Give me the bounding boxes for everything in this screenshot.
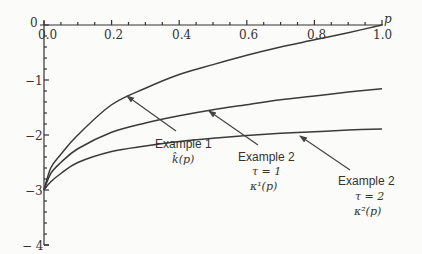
x-axis: 0.0 0.2 0.4 0.6 0.8 1.0 p [38, 12, 392, 42]
y-tick-label: − 4 [22, 239, 44, 253]
svg-text:τ = 1: τ = 1 [252, 165, 281, 178]
line-chart: 0.0 0.2 0.4 0.6 0.8 1.0 p 0 −1 −2 −3 − 4… [0, 0, 422, 254]
y-tick-label: −3 [25, 184, 43, 198]
svg-text:k̂(p): k̂(p) [172, 152, 194, 166]
curves [44, 25, 382, 190]
curve-example-2-tau-1 [44, 89, 382, 190]
x-tick-label: 0.0 [38, 28, 57, 42]
svg-text:κ¹(p): κ¹(p) [249, 180, 277, 193]
x-axis-label: p [384, 12, 392, 26]
x-tick-label: 1.0 [373, 28, 392, 42]
x-tick-label: 0.4 [172, 28, 191, 42]
curve-example-2-tau-2 [44, 129, 382, 190]
svg-text:κ²(p): κ²(p) [353, 205, 381, 218]
y-tick-label: −2 [25, 129, 43, 143]
svg-text:Example 2: Example 2 [238, 150, 295, 164]
annotation-example-2-tau-2: Example 2 τ = 2 κ²(p) [338, 174, 395, 218]
curve-example-1 [44, 25, 382, 190]
svg-text:τ = 2: τ = 2 [355, 190, 384, 203]
svg-text:Example 2: Example 2 [338, 174, 395, 188]
y-tick-label: −1 [25, 74, 43, 88]
annotation-example-1: Example 1 k̂(p) [155, 137, 212, 166]
x-tick-label: 0.6 [239, 28, 258, 42]
annotation-example-2-tau-1: Example 2 τ = 1 κ¹(p) [238, 150, 295, 193]
svg-text:Example 1: Example 1 [155, 137, 212, 151]
arrow-example-2-tau-2 [300, 136, 350, 170]
y-tick-label: 0 [30, 16, 38, 30]
arrow-example-2-tau-1 [209, 111, 258, 145]
y-axis: 0 −1 −2 −3 − 4 [22, 16, 49, 253]
x-tick-label: 0.2 [104, 28, 123, 42]
